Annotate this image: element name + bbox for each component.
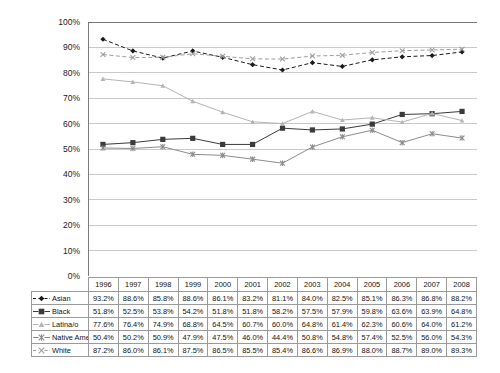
table-cell: 51.8%	[89, 305, 119, 318]
table-cell: 86.0%	[118, 344, 148, 357]
table-cell: 63.6%	[387, 305, 417, 318]
column-header-2008: 2008	[447, 278, 477, 292]
plot-area	[88, 22, 477, 276]
table-cell: 54.3%	[447, 331, 477, 344]
legend-marker-icon	[33, 307, 50, 316]
table-cell: 68.8%	[178, 318, 208, 331]
table-cell: 93.2%	[89, 292, 119, 305]
column-header-2001: 2001	[238, 278, 268, 292]
line-chart-svg	[88, 22, 477, 276]
data-point	[160, 137, 165, 142]
table-cell: 50.9%	[148, 331, 178, 344]
table-cell: 57.4%	[357, 331, 387, 344]
data-point	[459, 109, 464, 114]
table-cell: 89.3%	[447, 344, 477, 357]
table-cell: 86.8%	[417, 292, 447, 305]
table-cell: 88.6%	[118, 292, 148, 305]
table-cell: 86.5%	[208, 344, 238, 357]
column-header-2003: 2003	[297, 278, 327, 292]
gridlines	[88, 22, 477, 276]
table-corner-cell	[32, 278, 89, 292]
table-cell: 85.8%	[148, 292, 178, 305]
table-cell: 51.8%	[208, 305, 238, 318]
table-cell: 86.6%	[297, 344, 327, 357]
table-cell: 60.0%	[268, 318, 298, 331]
legend-row-asian: Asian	[32, 292, 89, 305]
data-point	[459, 49, 464, 54]
data-point	[190, 136, 195, 141]
table-cell: 63.9%	[417, 305, 447, 318]
table-cell: 85.1%	[357, 292, 387, 305]
y-axis-tick-60: 60%	[0, 119, 84, 129]
table-cell: 47.9%	[178, 331, 208, 344]
table-cell: 50.4%	[89, 331, 119, 344]
data-point	[100, 37, 105, 42]
table-cell: 64.8%	[297, 318, 327, 331]
legend-row-latina-o: Latina/o	[32, 318, 89, 331]
table-cell: 88.7%	[387, 344, 417, 357]
table-cell: 74.9%	[148, 318, 178, 331]
table-cell: 81.1%	[268, 292, 298, 305]
series-asian	[100, 37, 464, 73]
legend-row-white: White	[32, 344, 89, 357]
table-cell: 46.0%	[238, 331, 268, 344]
table-cell: 54.8%	[327, 331, 357, 344]
table-cell: 89.0%	[417, 344, 447, 357]
column-header-2004: 2004	[327, 278, 357, 292]
table-cell: 64.0%	[417, 318, 447, 331]
column-header-1997: 1997	[118, 278, 148, 292]
table-cell: 51.8%	[238, 305, 268, 318]
data-point	[370, 57, 375, 62]
data-series-layer	[100, 37, 464, 166]
series-native-american	[101, 127, 465, 166]
table-cell: 76.4%	[118, 318, 148, 331]
table-cell: 57.5%	[297, 305, 327, 318]
legend-marker-icon	[33, 346, 50, 355]
table-cell: 58.2%	[268, 305, 298, 318]
y-axis-tick-10: 10%	[0, 246, 84, 256]
chart-container: 100%90%80%70%60%50%40%30%20%10%0% 199619…	[0, 0, 500, 373]
table-cell: 82.5%	[327, 292, 357, 305]
table-header-row: 1996199719981999200020012002200320042005…	[32, 278, 477, 292]
series-black	[100, 109, 464, 147]
series-line	[103, 49, 462, 59]
table-cell: 64.8%	[447, 305, 477, 318]
data-point	[370, 122, 375, 127]
series-line	[103, 130, 462, 163]
legend-marker-icon	[33, 320, 50, 329]
data-point	[250, 142, 255, 147]
column-header-1998: 1998	[148, 278, 178, 292]
data-point	[130, 140, 135, 145]
data-point	[190, 99, 195, 103]
table-row: Latina/o77.6%76.4%74.9%68.8%64.5%60.7%60…	[32, 318, 477, 331]
table-cell: 62.3%	[357, 318, 387, 331]
table-cell: 59.8%	[357, 305, 387, 318]
legend-label: Black	[52, 307, 70, 316]
table-cell: 64.5%	[208, 318, 238, 331]
table-header: 1996199719981999200020012002200320042005…	[32, 278, 477, 292]
legend-label: Native American	[52, 333, 89, 342]
table-cell: 77.6%	[89, 318, 119, 331]
table-cell: 61.2%	[447, 318, 477, 331]
table-cell: 44.4%	[268, 331, 298, 344]
data-table: 1996199719981999200020012002200320042005…	[31, 277, 477, 357]
legend-marker-icon	[33, 333, 50, 342]
table-cell: 88.2%	[447, 292, 477, 305]
table-cell: 60.6%	[387, 318, 417, 331]
series-line	[103, 39, 462, 70]
table-cell: 50.2%	[118, 331, 148, 344]
table-cell: 86.1%	[208, 292, 238, 305]
table-cell: 50.8%	[297, 331, 327, 344]
table-cell: 60.7%	[238, 318, 268, 331]
y-axis-tick-80: 80%	[0, 68, 84, 78]
y-axis-tick-100: 100%	[0, 17, 84, 27]
table-cell: 85.5%	[238, 344, 268, 357]
table-body: Asian93.2%88.6%85.8%88.6%86.1%83.2%81.1%…	[32, 292, 477, 357]
series-line	[103, 79, 462, 124]
data-point	[250, 62, 255, 67]
series-latina-o	[101, 76, 465, 125]
table-row: White87.2%86.0%86.1%87.5%86.5%85.5%85.4%…	[32, 344, 477, 357]
data-point	[310, 127, 315, 132]
data-point	[220, 142, 225, 147]
data-point	[130, 48, 135, 53]
